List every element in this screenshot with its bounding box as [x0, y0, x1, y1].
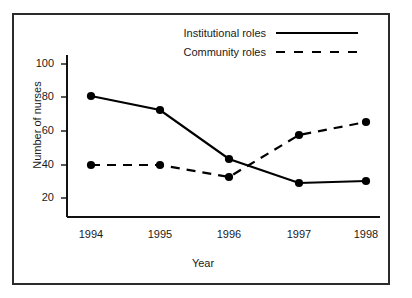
x-tick-label-1996: 1996	[207, 228, 251, 240]
data-point-community-1997	[295, 131, 303, 139]
y-tick-label-20: 20	[20, 191, 54, 203]
legend-label-community-roles: Community roles	[124, 46, 266, 58]
series-line-institutional-roles	[91, 96, 366, 183]
data-point-institutional-1996	[225, 155, 233, 163]
x-axis-title: Year	[14, 257, 392, 269]
data-point-community-1995	[156, 161, 164, 169]
data-point-community-1996	[225, 173, 233, 181]
data-point-institutional-1994	[87, 92, 95, 100]
data-point-community-1998	[362, 118, 370, 126]
x-tick-label-1998: 1998	[344, 228, 388, 240]
data-point-institutional-1995	[156, 106, 164, 114]
x-tick-label-1995: 1995	[138, 228, 182, 240]
y-axis-title: Number of nurses	[31, 70, 43, 180]
x-tick-label-1994: 1994	[69, 228, 113, 240]
data-point-institutional-1998	[362, 177, 370, 185]
figure-frame: Institutional roles Community roles 100 …	[12, 13, 390, 285]
data-point-community-1994	[87, 161, 95, 169]
x-tick-label-1997: 1997	[277, 228, 321, 240]
data-point-institutional-1997	[295, 179, 303, 187]
series-line-community-roles	[91, 122, 366, 177]
legend-label-institutional-roles: Institutional roles	[124, 27, 266, 39]
y-tick-label-100: 100	[20, 57, 54, 69]
